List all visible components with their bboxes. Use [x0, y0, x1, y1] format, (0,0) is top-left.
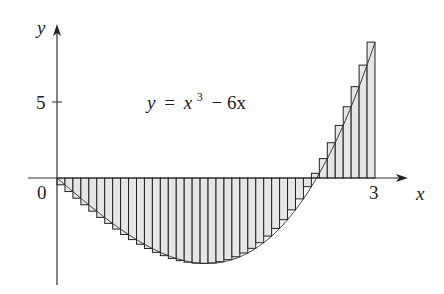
riemann-rectangle — [121, 178, 129, 235]
y-tick-label-5: 5 — [36, 92, 46, 113]
x-tick-label-3: 3 — [369, 182, 379, 203]
riemann-rectangle — [160, 178, 168, 256]
riemann-rectangle — [280, 178, 288, 220]
riemann-rectangle — [129, 178, 137, 240]
riemann-rectangle — [248, 178, 256, 248]
riemann-rectangle — [264, 178, 272, 236]
riemann-rectangle — [192, 178, 200, 263]
riemann-rectangle — [184, 178, 192, 262]
riemann-rectangles — [57, 42, 375, 263]
riemann-rectangle — [272, 178, 280, 228]
riemann-rectangle — [105, 178, 113, 223]
x-axis-label: x — [415, 183, 425, 204]
riemann-rectangle — [327, 143, 335, 178]
riemann-rectangle — [144, 178, 152, 249]
riemann-rectangle — [296, 178, 304, 199]
riemann-rectangle — [240, 178, 248, 253]
y-axis-label: y — [35, 17, 46, 38]
riemann-rectangle — [208, 178, 216, 263]
riemann-rectangle — [288, 178, 296, 210]
equation-label: y = x 3 − 6x — [145, 84, 247, 113]
riemann-rectangle — [303, 178, 311, 187]
riemann-rectangle — [152, 178, 160, 252]
riemann-rectangle — [351, 87, 359, 178]
riemann-rectangle — [81, 178, 89, 205]
riemann-rectangle — [168, 178, 176, 258]
riemann-rectangle — [65, 178, 73, 192]
svg-text:y = x 3: y = x 3 − 6x — [145, 84, 247, 113]
riemann-rectangle — [200, 178, 208, 263]
x-tick-label-0: 0 — [37, 182, 47, 203]
riemann-rectangle — [137, 178, 145, 244]
riemann-rectangle — [359, 65, 367, 178]
riemann-rectangle — [256, 178, 264, 243]
riemann-rectangle — [113, 178, 121, 229]
riemann-sum-chart: y x 5 0 3 y = x 3 − 6x — [0, 0, 444, 294]
riemann-rectangle — [224, 178, 232, 260]
riemann-rectangle — [97, 178, 105, 217]
riemann-rectangle — [216, 178, 224, 262]
riemann-rectangle — [176, 178, 184, 261]
riemann-rectangle — [232, 178, 240, 257]
